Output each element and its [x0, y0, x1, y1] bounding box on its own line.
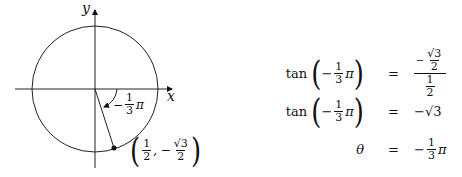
- equation-row-2: tan (−13π) = −√3: [300, 93, 462, 129]
- equation-block: tan (−13π) = −√32 12 tan (−13π) = −√3 θ …: [300, 55, 462, 175]
- point-label: ( 12 , − √32 ): [130, 137, 201, 163]
- equation-row-1: tan (−13π) = −√32 12: [300, 55, 462, 91]
- x-axis-label: x: [167, 88, 175, 104]
- equation-row-3: θ = −13π: [300, 131, 462, 167]
- point-marker: [112, 146, 117, 151]
- radius-line: [95, 89, 114, 148]
- y-axis-label: y: [82, 0, 90, 16]
- angle-label: − 13 π: [113, 92, 144, 117]
